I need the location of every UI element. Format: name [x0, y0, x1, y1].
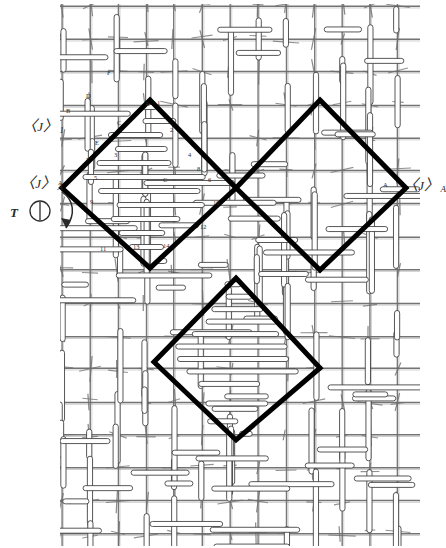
- point-label: 12: [200, 224, 207, 231]
- point-label: 2: [170, 127, 173, 134]
- point-label: 11: [100, 246, 106, 253]
- point-label: 1: [157, 100, 160, 107]
- point-label: 10: [213, 200, 220, 207]
- point-label: 3: [114, 152, 117, 159]
- point-label: 8: [197, 166, 200, 173]
- point-label: 14: [163, 243, 170, 250]
- point-label: 7: [86, 157, 89, 164]
- subscript: A: [439, 184, 446, 194]
- point-label: A: [383, 182, 388, 189]
- point-label: 6: [208, 177, 211, 184]
- point-label: C: [163, 177, 167, 184]
- point-label: C: [117, 120, 121, 127]
- point-label: 5: [94, 175, 97, 182]
- point-label: 13: [133, 244, 140, 251]
- point-label: B: [66, 108, 70, 115]
- point-label: D: [86, 93, 91, 100]
- point-label: F: [107, 70, 111, 77]
- point-label: A: [145, 101, 150, 108]
- point-label: E: [95, 140, 99, 147]
- point-label: 4: [188, 152, 191, 159]
- point-label: A: [58, 180, 63, 187]
- point-label: 9: [90, 199, 93, 206]
